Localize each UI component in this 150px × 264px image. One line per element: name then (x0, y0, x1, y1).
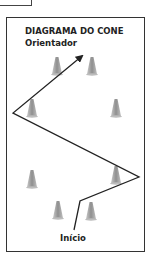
title-line2: Orientador (25, 37, 124, 49)
route-arrow (13, 56, 139, 230)
cone-icon (53, 201, 63, 218)
cone-icon (52, 57, 62, 74)
cone-icon (111, 166, 121, 183)
cone-icon (86, 202, 96, 219)
cones (26, 57, 122, 221)
cone-icon (87, 57, 97, 74)
diagram-frame (7, 18, 145, 252)
diagram-title: DIAGRAMA DO CONE Orientador (25, 25, 124, 49)
title-line1: DIAGRAMA DO CONE (25, 25, 124, 37)
cone-icon (111, 99, 121, 116)
cone-icon (27, 99, 37, 116)
start-label: Início (60, 233, 86, 243)
cone-icon (27, 170, 37, 187)
